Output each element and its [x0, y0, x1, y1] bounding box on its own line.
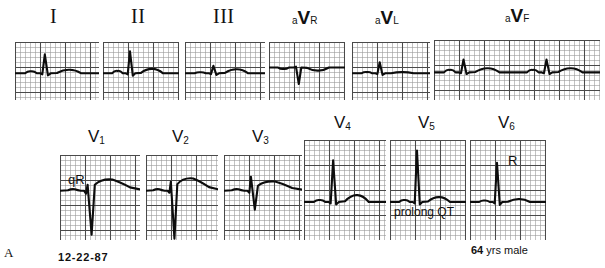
lead-label-v1: V1 — [88, 128, 105, 146]
lead-label-suffix: F — [523, 13, 529, 24]
ecg-panel-v1: qR — [60, 155, 140, 240]
ecg-panel-v6: R — [470, 140, 546, 240]
lead-label-avl: aVL — [375, 8, 399, 27]
lead-label-sub: 1 — [99, 135, 105, 146]
annotation-v6: R — [508, 154, 517, 167]
patient-age: 64 — [471, 244, 483, 256]
ecg-figure: qRprolong QTRIIIIIIaVRaVLaVFV1V2V3V4V5V6… — [0, 0, 605, 268]
lead-label-avr: aVR — [292, 8, 317, 27]
patient-demographics: 64 yrs male — [471, 244, 528, 256]
lead-label-sub: 6 — [509, 121, 515, 132]
lead-label-sub: 2 — [183, 135, 189, 146]
recording-date: 12-22-87 — [58, 251, 108, 263]
lead-label-i: I — [50, 6, 57, 26]
lead-label-main: V — [498, 113, 509, 132]
lead-label-main: V — [418, 113, 429, 132]
annotation-v5: prolong QT — [394, 206, 454, 218]
lead-label-suffix: L — [393, 15, 399, 26]
lead-label-v6: V6 — [498, 114, 515, 132]
lead-label-main: V — [334, 113, 345, 132]
lead-label-v4: V4 — [334, 114, 351, 132]
lead-label-v3: V3 — [252, 128, 269, 146]
lead-label-iii: III — [213, 6, 234, 26]
lead-label-main: V — [252, 127, 263, 146]
annotation-v1: qR — [68, 173, 85, 186]
ecg-panel-v2 — [146, 155, 218, 240]
lead-label-suffix: R — [310, 15, 317, 26]
ecg-panel-avr — [269, 42, 345, 100]
lead-label-main: V — [88, 127, 99, 146]
lead-label-sub: 4 — [345, 121, 351, 132]
ecg-panel-ii — [103, 42, 179, 100]
ecg-panel-v3 — [224, 155, 302, 240]
ecg-panel-avf — [434, 40, 600, 100]
patient-sex: yrs male — [486, 244, 528, 256]
lead-label-avf: aVF — [505, 6, 529, 25]
ecg-panel-v4 — [304, 140, 386, 240]
lead-label-v: V — [298, 7, 311, 28]
ecg-panel-v5: prolong QT — [390, 140, 466, 240]
ecg-panel-iii — [185, 42, 265, 100]
lead-label-sub: 3 — [263, 135, 269, 146]
lead-label-v2: V2 — [172, 128, 189, 146]
lead-label-main: V — [172, 127, 183, 146]
lead-label-ii: II — [131, 6, 145, 26]
lead-label-v: V — [511, 5, 524, 26]
ecg-panel-i — [15, 42, 99, 100]
ecg-panel-avl — [352, 42, 430, 100]
lead-label-sub: 5 — [429, 121, 435, 132]
figure-panel-letter: A — [4, 245, 13, 261]
lead-label-v: V — [381, 7, 394, 28]
lead-label-v5: V5 — [418, 114, 435, 132]
